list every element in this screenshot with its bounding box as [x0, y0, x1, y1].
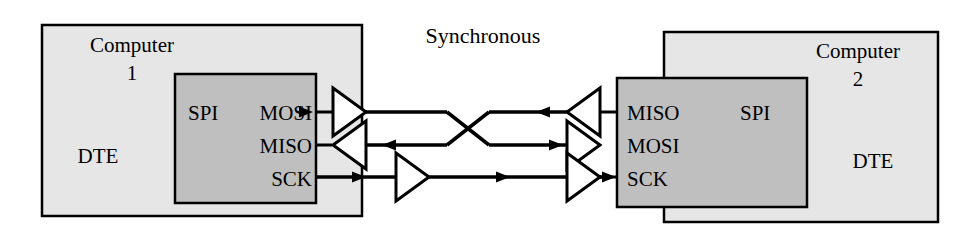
left-computer-terminal-type: DTE [78, 144, 119, 168]
buffer-right-sck-receiver [567, 153, 600, 201]
left-computer-name-line1: Computer [90, 33, 174, 57]
left-spi-label: SPI [188, 101, 218, 125]
left-computer-name-line2: 1 [127, 61, 138, 85]
synchronous-title: Synchronous [426, 23, 541, 48]
right-pin-label-sck: SCK [627, 167, 668, 191]
right-computer-name-line1: Computer [816, 39, 900, 63]
left-pin-label-sck: SCK [271, 167, 312, 191]
right-pin-label-mosi: MOSI [627, 134, 680, 158]
right-spi-label: SPI [740, 101, 770, 125]
right-pin-label-miso: MISO [627, 101, 680, 125]
left-pin-label-miso: MISO [259, 134, 312, 158]
diagram-canvas: Computer 1 DTE SPI MOSI MISO SCK Compute… [0, 0, 974, 237]
spi-synchronous-diagram: Computer 1 DTE SPI MOSI MISO SCK Compute… [0, 0, 974, 237]
right-computer-terminal-type: DTE [853, 149, 894, 173]
right-computer-name-line2: 2 [853, 67, 864, 91]
buffer-left-sck-driver [396, 153, 429, 201]
